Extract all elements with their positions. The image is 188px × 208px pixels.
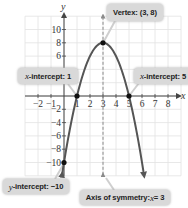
- x-tick-label: 2: [88, 99, 93, 109]
- y-tick-label: 10: [52, 25, 62, 35]
- x-intercept-1-point: [74, 93, 79, 98]
- y-tick-label: −4: [51, 118, 61, 128]
- y-intercept-point: [61, 160, 66, 165]
- y-axis-label: y: [60, 1, 66, 12]
- x-intercept-5-point: [126, 93, 131, 98]
- vertex-callout: Vertex: (3, 8): [107, 4, 163, 21]
- axis-of-symmetry-label: = 3: [154, 193, 164, 202]
- x-intercept-1-callout: x-intercept: 1: [18, 68, 78, 84]
- x-intercept-5-label: -intercept: 5: [144, 72, 186, 81]
- x-tick-label: 6: [140, 99, 145, 109]
- x-intercept-1-label: -intercept: 1: [29, 72, 71, 81]
- x-tick-label: −2: [33, 99, 43, 109]
- y-tick-label: −2: [51, 104, 61, 114]
- y-intercept-callout: y-intercept: −10: [3, 179, 69, 194]
- x-tick-label: 8: [166, 99, 171, 109]
- x-tick-label: 4: [114, 99, 119, 109]
- y-tick-label: −8: [51, 144, 61, 154]
- vertex-label: Vertex: (3, 8): [113, 8, 157, 17]
- vertex-point: [100, 40, 105, 45]
- y-tick-label: 6: [56, 51, 61, 61]
- parabola-chart: xy −2−1123456781086−2−4−6−8−10: [0, 0, 188, 208]
- callout-pointer: [103, 21, 115, 43]
- y-tick-label: −6: [51, 131, 61, 141]
- y-intercept-label: -intercept: −10: [13, 182, 64, 191]
- callout-pointer: [106, 178, 114, 190]
- x-axis-label: x: [180, 90, 186, 101]
- y-tick-label: −10: [46, 158, 61, 168]
- axis-of-symmetry-prefix: Axis of symmetry:: [86, 193, 150, 202]
- x-tick-label: 7: [153, 99, 158, 109]
- y-tick-label: 8: [56, 38, 61, 48]
- axis-of-symmetry-callout: Axis of symmetry: x = 3: [80, 190, 170, 205]
- x-intercept-5-callout: x-intercept: 5: [134, 68, 188, 84]
